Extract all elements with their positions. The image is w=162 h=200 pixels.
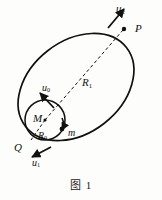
figure-caption: 图 1 [0,176,162,192]
label-M: M [33,113,42,124]
center-dot-M [43,118,46,121]
label-u2: u2 [116,3,125,15]
label-R1: R1 [82,77,92,89]
label-R0: R0 [38,131,47,142]
orbit-direction-arrow-m [62,118,64,130]
point-dot-P [122,27,126,31]
label-u1: u1 [32,158,40,169]
velocity-arrow-u1 [32,147,51,157]
label-Q: Q [14,142,22,153]
figure-container: u2 P R1 u0 M R0 m Q u1 图 1 [0,0,162,200]
label-m: m [68,128,75,138]
label-u0: u0 [42,83,50,94]
outer-orbit-ellipse [0,11,155,162]
label-P: P [135,23,142,34]
